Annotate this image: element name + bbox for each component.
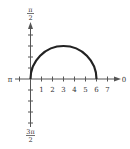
tick-labels: 1 2 3 4 5 6 7	[39, 86, 109, 94]
tick-label-5: 5	[83, 86, 87, 94]
tick-label-1: 1	[39, 86, 43, 94]
tick-label-7: 7	[105, 86, 109, 94]
tick-label-4: 4	[72, 86, 77, 94]
pi-over-2-numerator: π	[28, 6, 33, 14]
polar-graph: 1 2 3 4 5 6 7 0 π π 2 3π 2	[0, 0, 130, 149]
angle-label-3pi-over-2: 3π 2	[26, 128, 35, 144]
tick-label-3: 3	[61, 86, 65, 94]
tick-label-2: 2	[50, 86, 54, 94]
three-pi-over-2-denominator: 2	[28, 136, 32, 144]
angle-label-0: 0	[122, 76, 126, 84]
angle-label-pi: π	[8, 76, 13, 84]
arrow-up-icon	[28, 22, 33, 29]
pi-over-2-denominator: 2	[28, 14, 32, 22]
angle-label-pi-over-2: π 2	[27, 6, 34, 22]
three-pi-over-2-numerator: 3π	[26, 128, 35, 136]
polar-curve	[31, 46, 97, 79]
tick-label-6: 6	[94, 86, 99, 94]
arrow-right-icon	[114, 77, 121, 82]
